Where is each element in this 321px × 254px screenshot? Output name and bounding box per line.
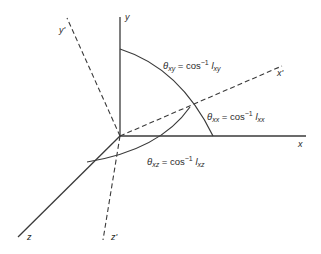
z-prime-axis	[103, 136, 120, 240]
coordinate-rotation-diagram	[0, 0, 321, 254]
z-axis-label: z	[27, 232, 32, 242]
y-prime-axis	[67, 18, 120, 136]
x-prime-axis	[120, 66, 282, 136]
z-prime-axis-label: z'	[111, 232, 117, 242]
theta-xx-label: θxx = cos−1 lxx	[207, 110, 265, 123]
y-prime-axis-label: y'	[59, 25, 65, 35]
x-prime-axis-label: x'	[277, 68, 283, 78]
x-axis-label: x	[298, 139, 303, 149]
z-axis	[18, 136, 120, 237]
theta-xy-label: θxy = cos−1 lxy	[163, 59, 221, 72]
theta-xz-label: θxz = cos−1 lxz	[147, 155, 205, 168]
y-axis-label: y	[125, 12, 130, 22]
